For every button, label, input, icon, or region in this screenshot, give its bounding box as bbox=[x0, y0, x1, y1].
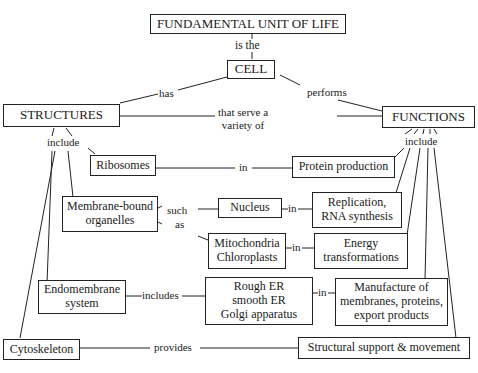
node-label: CELL bbox=[235, 62, 268, 77]
node-label: export products bbox=[354, 309, 429, 323]
node-label: Nucleus bbox=[230, 201, 269, 215]
node-label: Structural support & movement bbox=[308, 341, 460, 355]
node-structures: STRUCTURES bbox=[3, 104, 120, 127]
node-label: membranes, proteins, bbox=[340, 295, 443, 309]
node-structural-support-movement: Structural support & movement bbox=[298, 337, 470, 359]
node-label: FUNDAMENTAL UNIT OF LIFE bbox=[157, 17, 339, 32]
node-ribosomes: Ribosomes bbox=[90, 155, 156, 176]
link-such: such bbox=[167, 204, 187, 217]
node-label: Ribosomes bbox=[96, 159, 149, 173]
node-label: organelles bbox=[85, 214, 134, 228]
link-has: has bbox=[159, 87, 174, 100]
node-label: FUNCTIONS bbox=[392, 110, 465, 125]
node-label: Endomembrane bbox=[44, 283, 120, 297]
node-label: Mitochondria bbox=[214, 237, 279, 251]
node-cytoskeleton: Cytoskeleton bbox=[3, 339, 80, 360]
link-er-in: in bbox=[318, 286, 327, 299]
link-provides: provides bbox=[154, 341, 192, 354]
link-ribosomes-in: in bbox=[239, 161, 248, 174]
link-include-functions: include bbox=[405, 135, 437, 148]
node-functions: FUNCTIONS bbox=[382, 106, 475, 128]
node-label: RNA synthesis bbox=[321, 210, 393, 224]
link-mito-in: in bbox=[292, 241, 301, 254]
node-label: Rough ER bbox=[234, 280, 284, 294]
node-label: Protein production bbox=[299, 160, 389, 174]
node-label: smooth ER bbox=[232, 294, 286, 308]
node-membrane-bound-organelles: Membrane-bound organelles bbox=[62, 196, 158, 232]
node-label: transformations bbox=[323, 251, 398, 265]
link-is-the: is the bbox=[235, 39, 260, 52]
node-er-golgi: Rough ER smooth ER Golgi apparatus bbox=[205, 277, 313, 325]
node-label: Energy bbox=[344, 237, 378, 251]
link-that-serve: that serve a variety of bbox=[218, 106, 268, 131]
node-label: Replication, bbox=[328, 196, 386, 210]
node-manufacture: Manufacture of membranes, proteins, expo… bbox=[335, 278, 448, 326]
node-label: Manufacture of bbox=[354, 281, 428, 295]
link-performs: performs bbox=[307, 86, 347, 99]
concept-map: FUNDAMENTAL UNIT OF LIFE CELL STRUCTURES… bbox=[0, 0, 478, 373]
link-include-structures: include bbox=[47, 136, 79, 149]
link-nucleus-in: in bbox=[288, 202, 297, 215]
node-label: Golgi apparatus bbox=[221, 308, 297, 322]
link-as: as bbox=[175, 218, 184, 231]
node-label: Chloroplasts bbox=[217, 251, 278, 265]
node-replication-rna-synthesis: Replication, RNA synthesis bbox=[312, 192, 402, 228]
node-protein-production: Protein production bbox=[292, 156, 395, 178]
node-endomembrane-system: Endomembrane system bbox=[38, 280, 126, 314]
link-includes: includes bbox=[142, 289, 179, 302]
link-label-line: that serve a bbox=[218, 106, 268, 119]
node-fundamental-unit-of-life: FUNDAMENTAL UNIT OF LIFE bbox=[150, 14, 346, 34]
node-label: system bbox=[65, 297, 98, 311]
link-label-line: variety of bbox=[218, 119, 268, 132]
node-label: STRUCTURES bbox=[20, 108, 103, 123]
node-label: Cytoskeleton bbox=[10, 343, 73, 357]
node-mitochondria-chloroplasts: Mitochondria Chloroplasts bbox=[208, 233, 286, 269]
node-cell: CELL bbox=[227, 60, 275, 79]
node-nucleus: Nucleus bbox=[218, 198, 282, 218]
node-label: Membrane-bound bbox=[67, 200, 153, 214]
node-energy-transformations: Energy transformations bbox=[314, 233, 408, 269]
